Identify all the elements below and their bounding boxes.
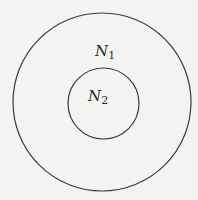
- label-n2: N2: [87, 87, 108, 107]
- diagram-canvas: N1 N2: [0, 0, 198, 200]
- label-n2-subscript: 2: [101, 94, 108, 107]
- nested-circles-diagram: N1 N2: [0, 0, 198, 200]
- label-n1-letter: N: [94, 42, 109, 60]
- label-n2-letter: N: [87, 87, 102, 105]
- label-n1-subscript: 1: [108, 49, 115, 62]
- label-n1: N1: [94, 42, 115, 62]
